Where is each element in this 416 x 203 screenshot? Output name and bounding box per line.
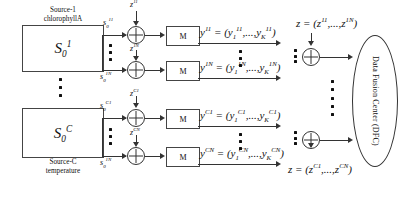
quantizer-block-1-label: M xyxy=(179,32,186,41)
observation-2-line xyxy=(198,78,278,79)
signal-label-s0-11: s011 xyxy=(103,18,113,27)
combiner-1-output-line xyxy=(320,57,350,58)
observation-4-line xyxy=(198,164,278,165)
source-1-caption-line1: Source-1 xyxy=(26,6,100,15)
data-fusion-center-label: Data Fusion Center (DFC) xyxy=(371,56,380,146)
noise-label-z-C1: zC1 xyxy=(130,89,139,98)
signal-label-s0-CN: s01N xyxy=(100,158,111,167)
source-c-bus xyxy=(102,118,103,157)
source-c-caption-line2: temperature xyxy=(26,167,100,176)
observation-equation-3: yC1 = (y1C1,...,yKC1) xyxy=(200,109,280,121)
signal-label-s0-C1: s0C1 xyxy=(100,101,111,110)
source-1-block: S01 xyxy=(22,25,104,72)
source-1-bus xyxy=(102,35,103,71)
source-1-caption: Source-1 chlorophyllA xyxy=(26,6,100,24)
observation-2-arrow xyxy=(276,75,281,81)
quantizer-block-3: M xyxy=(166,109,200,129)
quantizer-block-4-label: M xyxy=(179,153,186,162)
quantizer-block-3-label: M xyxy=(179,115,186,124)
observation-3-line xyxy=(198,126,278,127)
noise-1-arrow xyxy=(133,21,139,26)
observation-equation-4: yCN = (y1CN,...,yKCN) xyxy=(200,147,284,159)
adder-node-3 xyxy=(127,109,145,127)
observation-1-line xyxy=(198,43,278,44)
data-fusion-center-oval: Data Fusion Center (DFC) xyxy=(352,35,398,167)
adder-node-2 xyxy=(127,61,145,79)
vector-2-arrow xyxy=(308,143,314,148)
vector-equation-2: z = (zC1,...,zCN) xyxy=(288,163,352,175)
source-1-caption-line2: chlorophyllA xyxy=(26,15,100,24)
source-c-caption: Source-C temperature xyxy=(26,158,100,176)
m-block-1-input-arrow xyxy=(160,32,165,38)
observation-4-arrow xyxy=(276,161,281,167)
vector-equation-1: z = (z11,...,z1N) xyxy=(296,17,357,29)
source-c-branch-ellipsis xyxy=(108,128,112,145)
observation-equation-1: y11 = (y111,...,yK11) xyxy=(200,26,276,38)
combiner-2-input-ellipsis xyxy=(293,131,297,145)
source-c-block: S0C xyxy=(22,108,104,158)
combiner-node-1 xyxy=(302,48,320,66)
signal-label-s0-1N: s01N xyxy=(100,72,111,81)
noise-4-line xyxy=(136,135,137,142)
source-group-ellipsis xyxy=(58,78,62,97)
dfc-input-arrow-1 xyxy=(348,54,353,60)
noise-3-arrow xyxy=(133,103,139,108)
observation-3-arrow xyxy=(276,123,281,129)
quantizer-block-1: M xyxy=(166,26,200,46)
source-c-caption-line1: Source-C xyxy=(26,158,100,167)
noise-4-arrow xyxy=(133,142,139,147)
observation-equation-2: y1N = (y11N,...,yK1N) xyxy=(200,61,280,73)
adder-node-1 xyxy=(127,26,145,44)
source-1-branch-ellipsis xyxy=(108,44,112,61)
adder-node-4 xyxy=(127,147,145,165)
source-1-block-label: S01 xyxy=(55,40,72,57)
dfc-input-arrow-2 xyxy=(348,137,353,143)
diagram-canvas: Source-1 chlorophyllA S01 s011 z11 M y11… xyxy=(0,0,416,203)
combiner-1-input-ellipsis xyxy=(293,49,297,63)
quantizer-block-2: M xyxy=(166,61,200,81)
noise-2-arrow xyxy=(133,56,139,61)
noise-label-z-CN: zCN xyxy=(130,128,140,137)
combiner-2-output-line xyxy=(320,140,350,141)
source-c-block-label: S0C xyxy=(54,125,72,142)
observation-1-arrow xyxy=(276,40,281,46)
quantizer-block-2-label: M xyxy=(179,67,186,76)
vector-1-arrow xyxy=(308,41,314,46)
noise-label-z-11: z11 xyxy=(130,0,138,9)
noise-label-z-1N: z1N xyxy=(130,44,139,53)
m-block-3-input-arrow xyxy=(160,115,165,121)
m-block-2-input-arrow xyxy=(160,67,165,73)
m-block-4-input-arrow xyxy=(160,153,165,159)
dfc-input-group-ellipsis xyxy=(330,80,334,116)
quantizer-block-4: M xyxy=(166,147,200,167)
